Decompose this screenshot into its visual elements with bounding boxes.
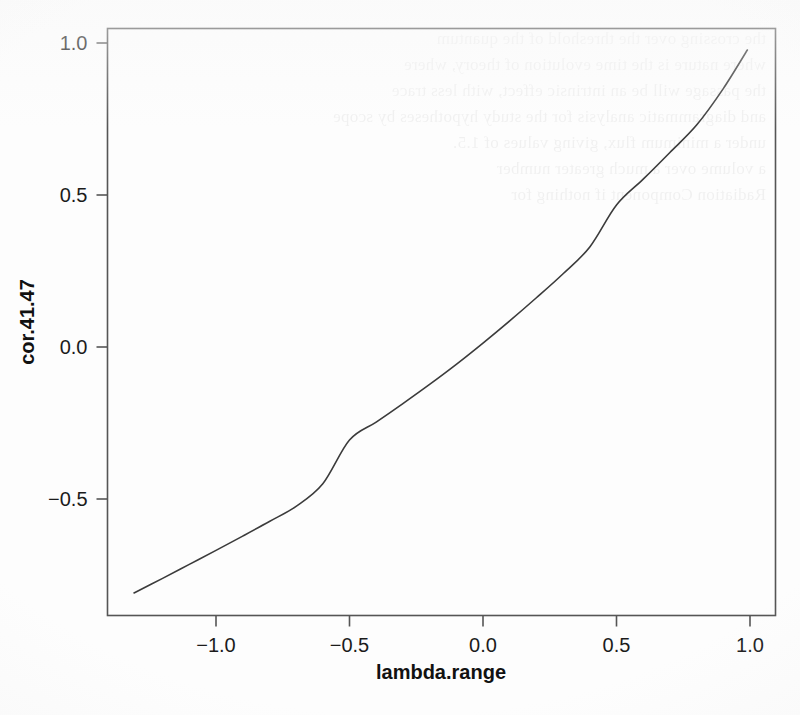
- x-tick-label: −0.5: [330, 634, 369, 656]
- x-tick-label: 0.5: [603, 634, 631, 656]
- y-tick-label: −0.5: [48, 488, 87, 510]
- y-axis-title: cor.41.47: [16, 279, 38, 365]
- figure-page: the crossing over the threshold of the q…: [0, 0, 800, 715]
- x-tick-label: 1.0: [736, 634, 764, 656]
- x-axis-title: lambda.range: [376, 661, 506, 683]
- x-tick-label: 0.0: [469, 634, 497, 656]
- y-tick-label: 0.5: [60, 184, 88, 206]
- y-axis: −0.50.00.51.0: [48, 32, 107, 510]
- line-chart: −0.50.00.51.0 −1.0−0.50.00.51.0 lambda.r…: [0, 0, 800, 715]
- data-series-line: [134, 50, 747, 593]
- plot-frame: [108, 29, 776, 616]
- x-tick-label: −1.0: [196, 634, 235, 656]
- x-axis: −1.0−0.50.00.51.0: [196, 616, 764, 656]
- y-tick-label: 0.0: [60, 336, 88, 358]
- y-tick-label: 1.0: [60, 32, 88, 54]
